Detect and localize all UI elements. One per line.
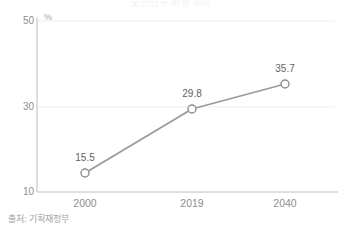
x-tick-2040: 2040 — [273, 197, 296, 209]
data-point-marker-2000[interactable] — [81, 169, 89, 177]
chart-plot-area — [0, 0, 343, 230]
data-label-2000: 15.5 — [75, 152, 94, 163]
data-label-2040: 35.7 — [275, 63, 294, 74]
x-tick-2019: 2019 — [180, 197, 203, 209]
data-point-marker-2019[interactable] — [188, 105, 196, 113]
data-label-2019: 29.8 — [182, 88, 201, 99]
x-tick-2000: 2000 — [73, 197, 96, 209]
chart-container: 노인인구 비중 추이 % 50 30 10 15.5 29.8 35.7 200… — [0, 0, 343, 230]
source-note: 출처: 기획재정부 — [8, 212, 69, 225]
data-point-marker-2040[interactable] — [281, 80, 289, 88]
